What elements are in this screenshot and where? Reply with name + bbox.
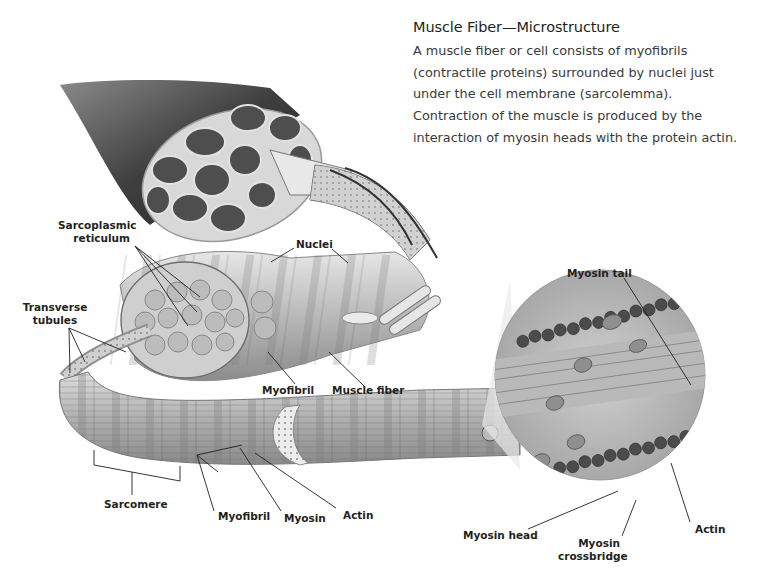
label-line: Myosin xyxy=(558,537,620,550)
label-myofibril-lower: Myofibril xyxy=(218,510,270,523)
label-sarcoplasmic-reticulum: Sarcoplasmic reticulum xyxy=(58,219,130,245)
description-line: Contraction of the muscle is produced by… xyxy=(413,105,765,127)
label-sarcomere: Sarcomere xyxy=(104,498,168,511)
label-myosin-head: Myosin head xyxy=(463,529,538,542)
label-myosin-tail: Myosin tail xyxy=(567,267,632,280)
label-line: Sarcoplasmic xyxy=(58,219,130,232)
label-nuclei: Nuclei xyxy=(296,238,333,251)
label-muscle-fiber: Muscle fiber xyxy=(332,384,404,397)
description-line: A muscle fiber or cell consists of myofi… xyxy=(413,40,765,62)
label-line: Transverse xyxy=(22,301,88,314)
label-myosin-crossbridge: Myosin crossbridge xyxy=(558,537,620,563)
description-line: (contractile proteins) surrounded by nuc… xyxy=(413,62,765,84)
description: A muscle fiber or cell consists of myofi… xyxy=(413,40,765,149)
label-line: tubules xyxy=(22,314,88,327)
label-actin-right: Actin xyxy=(695,523,725,536)
label-transverse-tubules: Transverse tubules xyxy=(22,301,88,327)
description-line: under the cell membrane (sarcolemma). xyxy=(413,83,765,105)
label-line: reticulum xyxy=(58,232,130,245)
label-line: crossbridge xyxy=(558,550,620,563)
label-actin-lower: Actin xyxy=(343,509,373,522)
description-line: interaction of myosin heads with the pro… xyxy=(413,127,765,149)
page-title: Muscle Fiber—Microstructure xyxy=(413,19,620,35)
magnified-view xyxy=(487,270,723,497)
label-myosin: Myosin xyxy=(284,512,326,525)
label-myofibril-upper: Myofibril xyxy=(262,384,314,397)
